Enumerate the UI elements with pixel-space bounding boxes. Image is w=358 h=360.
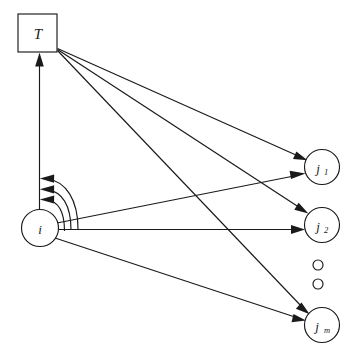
graph-canvas: T i j 1 j 2 j m	[0, 0, 358, 360]
edge-T-to-jm[interactable]	[58, 51, 310, 315]
edge-i-to-j2[interactable]	[58, 225, 305, 234]
edge-T-to-j1-arrowhead	[293, 151, 308, 160]
diagram-root: T i j 1 j 2 j m	[0, 0, 358, 360]
edge-T-to-jm-line	[58, 51, 304, 309]
node-j1-subscript: 1	[324, 167, 328, 177]
edge-i-to-T[interactable]	[35, 53, 44, 210]
edge-T-to-j2-line	[58, 50, 303, 210]
node-j1[interactable]: j 1	[305, 150, 340, 185]
node-i-label: i	[38, 222, 42, 237]
edge-i-to-T-arrowhead	[35, 53, 44, 67]
ellipsis-dots	[313, 260, 323, 289]
feedback-arc-2-arrowhead	[40, 185, 54, 193]
edge-T-to-j2[interactable]	[58, 50, 309, 214]
node-jm-shape	[305, 308, 340, 343]
node-i[interactable]: i	[22, 210, 59, 247]
edge-i-to-jm-line	[55, 238, 300, 319]
edge-i-to-jm[interactable]	[55, 238, 306, 322]
edge-i-to-j2-arrowhead	[291, 225, 305, 234]
edges-layer	[35, 49, 309, 323]
node-jm[interactable]: j m	[305, 308, 340, 343]
node-jm-subscript: m	[324, 325, 330, 335]
edge-i-to-jm-arrowhead	[292, 314, 307, 322]
node-j1-shape	[305, 150, 340, 185]
edge-T-to-j1[interactable]	[58, 49, 308, 161]
feedback-arc-1-arrowhead	[40, 175, 54, 183]
edge-T-to-j1-line	[58, 49, 302, 158]
ellipsis-dot-1	[313, 260, 323, 270]
edge-i-to-j1[interactable]	[57, 171, 306, 223]
edge-T-to-j2-arrowhead	[294, 203, 308, 214]
ellipsis-dot-2	[313, 279, 323, 289]
edge-i-to-j1-line	[57, 175, 299, 223]
node-T[interactable]: T	[18, 14, 57, 52]
edge-i-to-j1-arrowhead	[290, 171, 306, 179]
node-j2-shape	[305, 208, 340, 243]
edge-T-to-jm-arrowhead	[296, 303, 310, 315]
feedback-arc-3-arrowhead	[40, 195, 54, 203]
node-j2[interactable]: j 2	[305, 208, 340, 243]
